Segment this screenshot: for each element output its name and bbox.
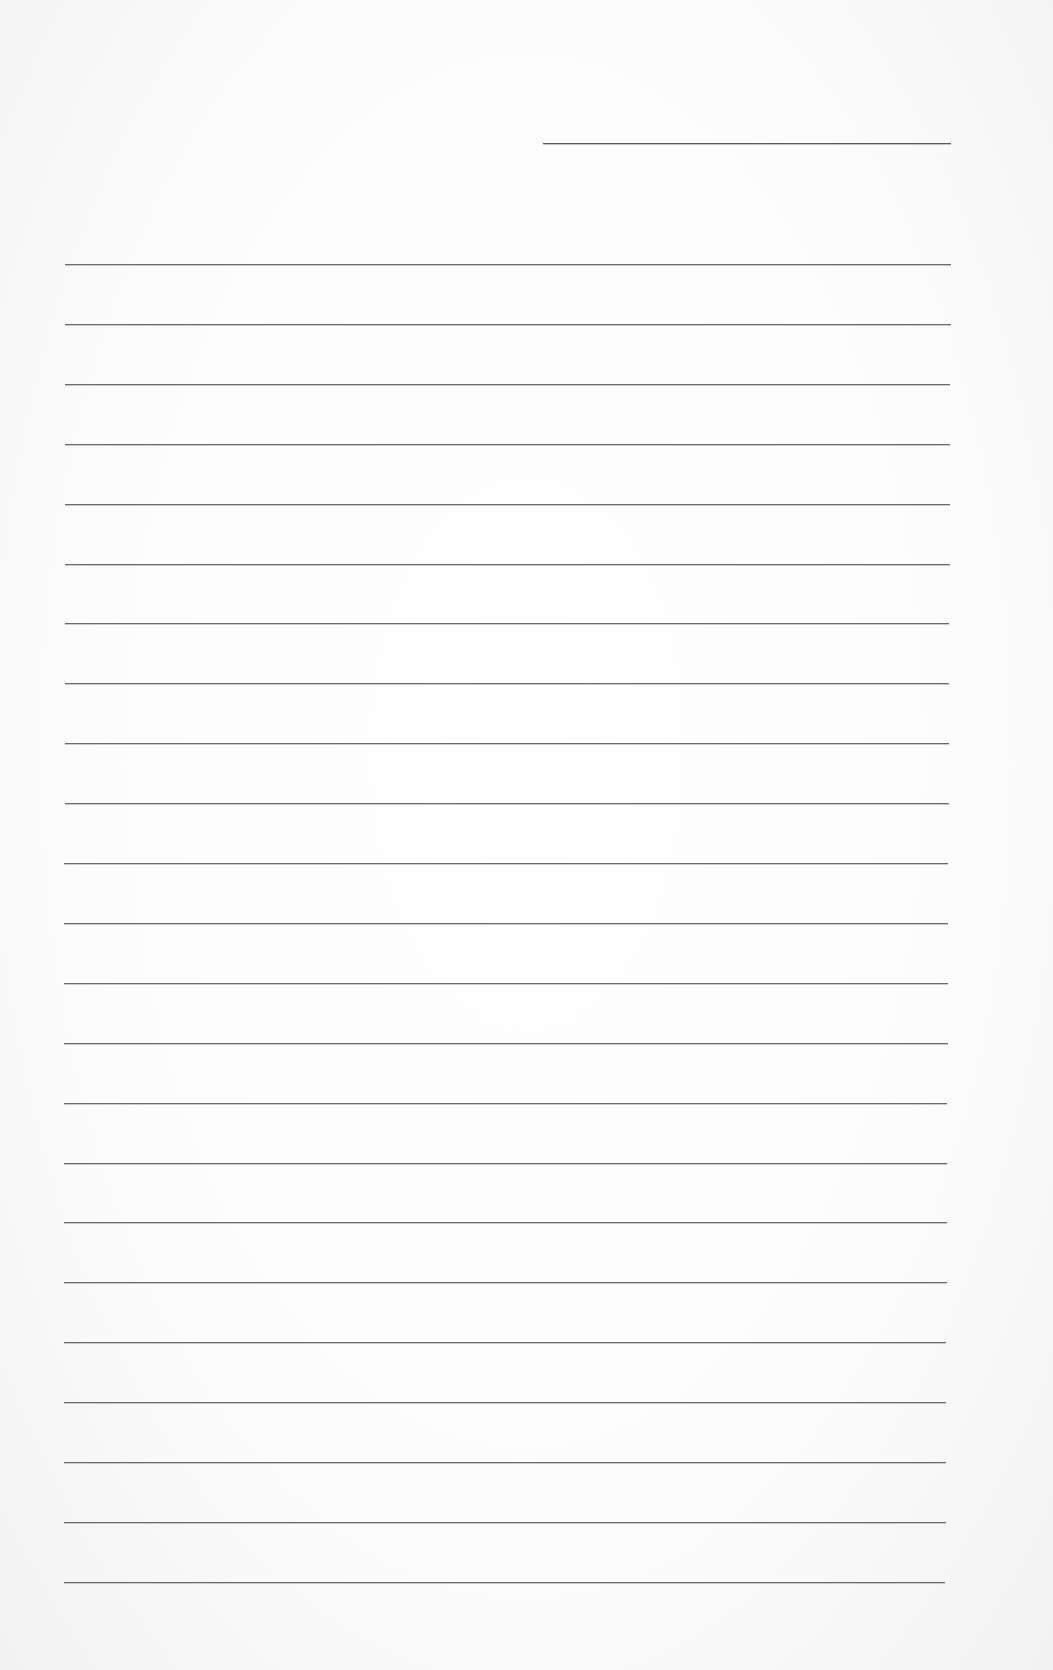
ruled-line xyxy=(65,384,950,385)
ruled-line xyxy=(64,923,948,924)
ruled-line xyxy=(64,1163,947,1164)
ruled-line xyxy=(64,863,948,864)
ruled-line xyxy=(64,1043,948,1044)
ruled-line xyxy=(64,1282,947,1283)
ruled-line xyxy=(65,444,950,445)
ruled-line xyxy=(64,1402,946,1403)
ruled-line xyxy=(65,324,951,325)
ruled-paper-sheet xyxy=(0,0,1053,1670)
ruled-line xyxy=(64,1103,947,1104)
ruled-line xyxy=(65,683,949,684)
ruled-line xyxy=(64,1582,945,1583)
ruled-line xyxy=(64,1462,946,1463)
ruled-line xyxy=(65,504,950,505)
ruled-line xyxy=(64,1522,946,1523)
ruled-line xyxy=(65,564,950,565)
ruled-line xyxy=(65,623,949,624)
ruled-line xyxy=(65,264,951,265)
ruled-line xyxy=(65,743,949,744)
ruled-line xyxy=(65,803,949,804)
header-date-line xyxy=(543,143,951,144)
ruled-line xyxy=(64,983,948,984)
ruled-line xyxy=(64,1342,946,1343)
ruled-line xyxy=(64,1222,947,1223)
